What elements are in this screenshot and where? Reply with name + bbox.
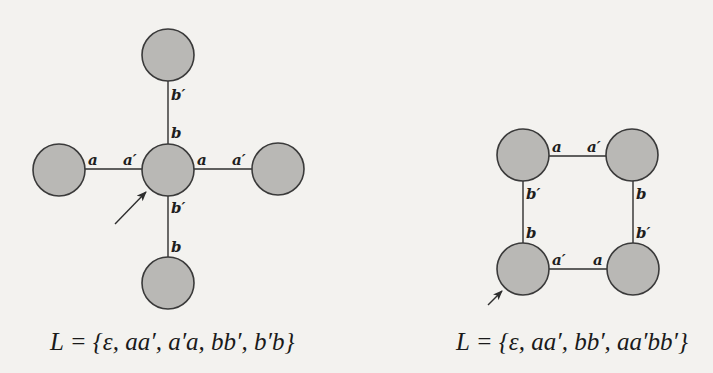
square-diagram: a a′ b′ b b b′ a′ a L = {ε, aa′, bb′, aa… bbox=[455, 129, 688, 355]
label-top-b-prime: b′ bbox=[171, 86, 185, 104]
label-br-b-prime: b′ bbox=[636, 224, 650, 242]
star-diagram: b′ b a a′ a a′ b′ b L = {ε, aa′, a′a, bb… bbox=[33, 29, 304, 355]
label-bl-a-prime: a′ bbox=[552, 251, 566, 269]
label-tr-b: b bbox=[636, 185, 647, 203]
label-right-a-prime: a′ bbox=[232, 151, 246, 169]
label-center-a-right: a bbox=[197, 151, 207, 169]
start-arrow-icon bbox=[115, 192, 146, 224]
label-tl-b-prime: b′ bbox=[526, 185, 540, 203]
start-arrow-icon bbox=[488, 291, 502, 305]
node-right bbox=[252, 143, 304, 195]
label-left-a: a bbox=[88, 151, 98, 169]
label-center-b-prime-bottom: b′ bbox=[171, 199, 185, 217]
node-top-right bbox=[606, 129, 658, 181]
star-caption: L = {ε, aa′, a′a, bb′, b′b} bbox=[49, 328, 295, 355]
node-top bbox=[142, 29, 194, 81]
label-br-a: a bbox=[593, 251, 603, 269]
node-bottom-left bbox=[497, 243, 549, 295]
square-caption: L = {ε, aa′, bb′, aa′bb′} bbox=[455, 328, 688, 355]
label-bottom-b: b bbox=[171, 238, 182, 256]
node-bottom bbox=[142, 257, 194, 309]
label-tl-a: a bbox=[552, 138, 562, 156]
label-center-a-prime-left: a′ bbox=[123, 151, 137, 169]
label-bl-b: b bbox=[526, 224, 537, 242]
diagram-canvas: b′ b a a′ a a′ b′ b L = {ε, aa′, a′a, bb… bbox=[0, 0, 713, 373]
label-center-b-top: b bbox=[171, 124, 182, 142]
node-top-left bbox=[497, 129, 549, 181]
node-center bbox=[142, 144, 194, 196]
node-bottom-right bbox=[607, 243, 659, 295]
label-tr-a-prime: a′ bbox=[587, 138, 601, 156]
node-left bbox=[33, 144, 85, 196]
